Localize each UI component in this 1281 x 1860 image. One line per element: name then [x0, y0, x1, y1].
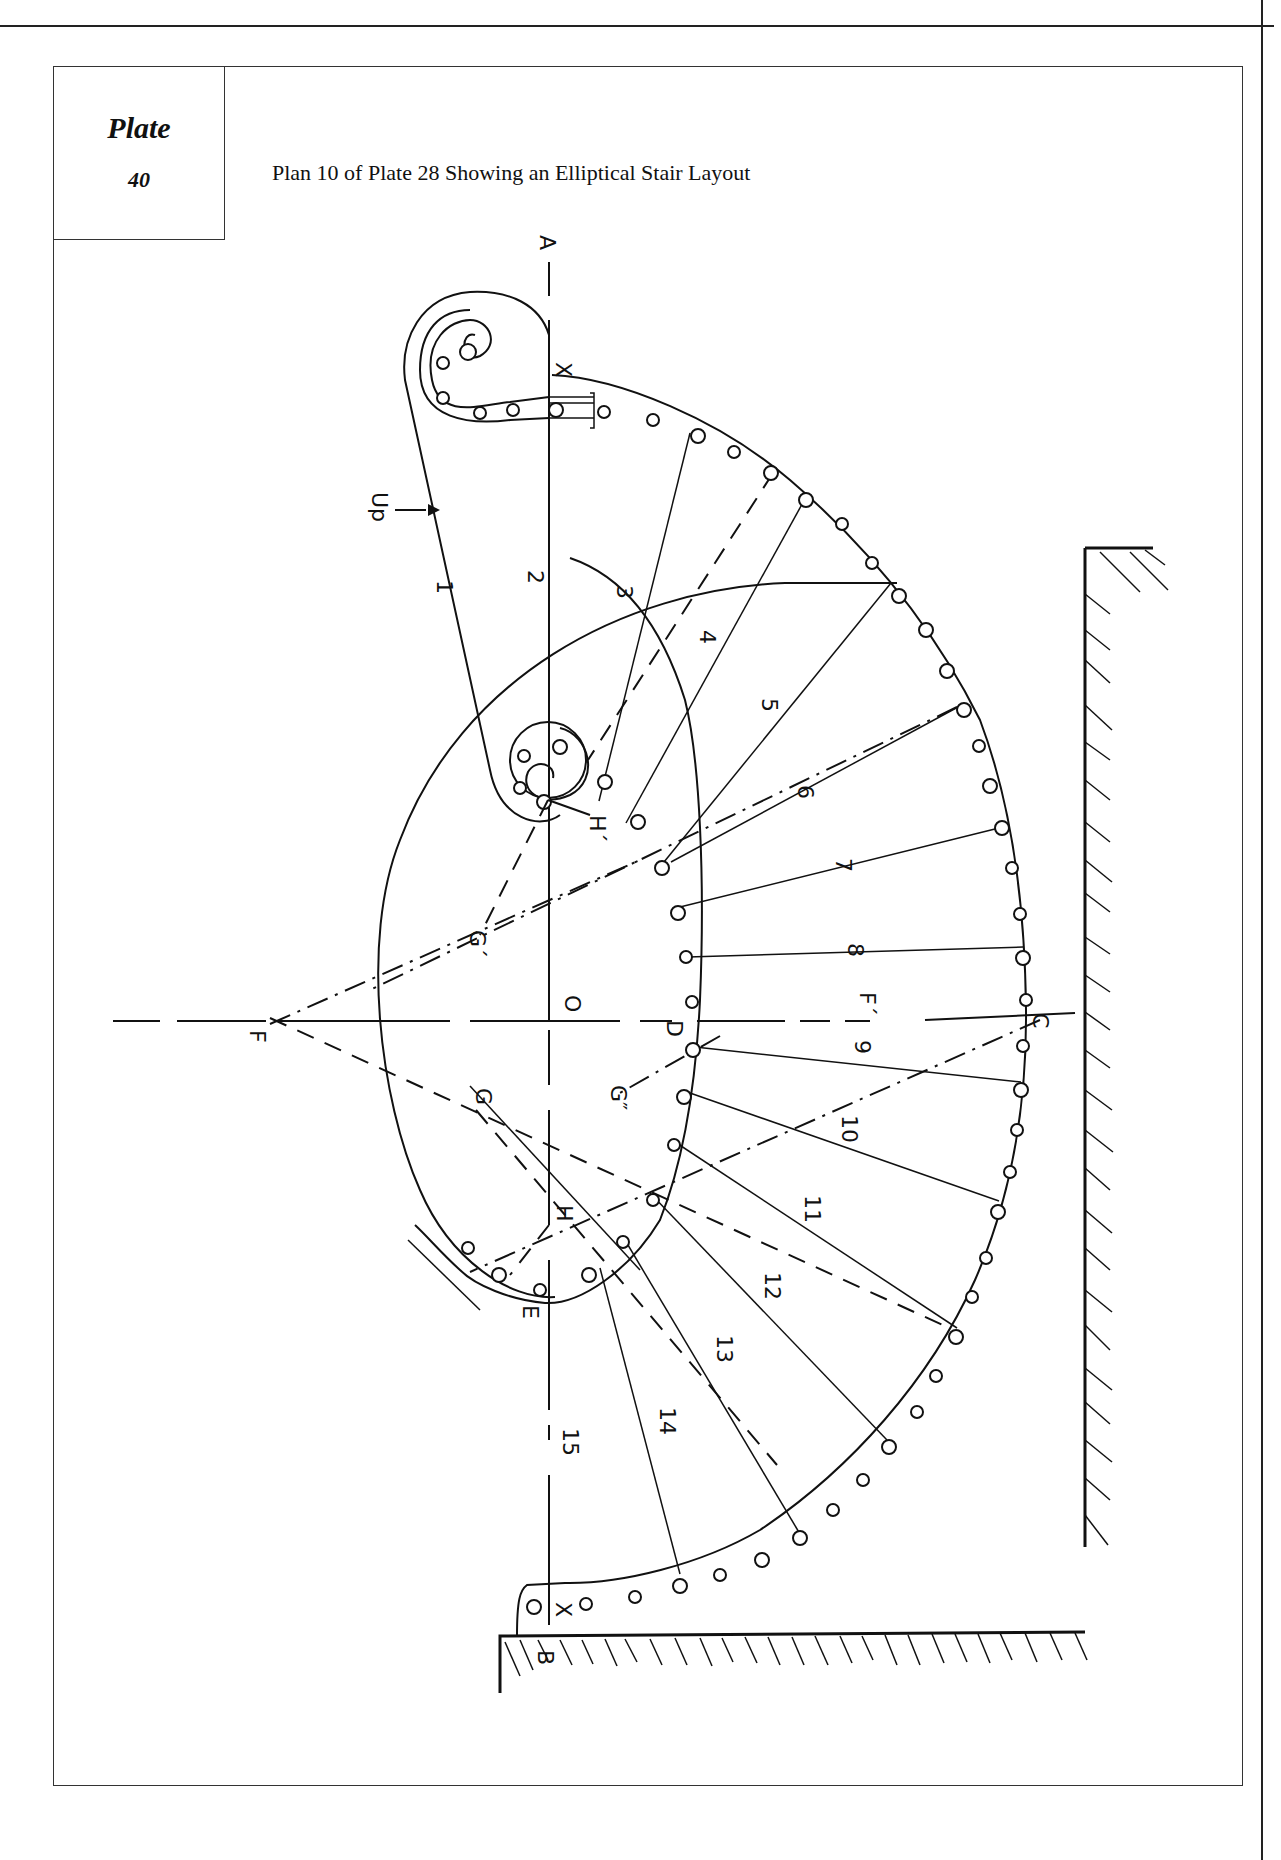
step-11: 11	[800, 1195, 825, 1223]
label-o: O	[560, 995, 585, 1012]
outer-handrail	[517, 375, 1026, 1636]
elliptical-stair-plan: A X Up H´ G´ O D F´ C F G G″ H E X B 1 2…	[0, 0, 1281, 1860]
step-13: 13	[712, 1335, 737, 1363]
step-6: 6	[793, 785, 818, 799]
label-x-bottom: X	[551, 1602, 576, 1617]
step-1: 1	[432, 580, 457, 594]
outer-balusters	[527, 406, 1032, 1614]
label-a: A	[535, 235, 560, 250]
construction-lines	[270, 473, 1040, 1465]
step-2: 2	[523, 570, 548, 584]
step-10: 10	[837, 1115, 862, 1143]
step-number-labels: 1 2 3 4 5 6 7 8 9 10 11 12 13 14 15	[432, 570, 875, 1456]
step-3: 3	[612, 585, 637, 599]
label-f-prime: F´	[855, 992, 880, 1016]
step-14: 14	[655, 1407, 680, 1435]
step-9: 9	[850, 1040, 875, 1054]
wall-right	[1085, 548, 1168, 1547]
step-8: 8	[843, 943, 868, 957]
step-15: 15	[558, 1428, 583, 1456]
step-risers	[408, 433, 1023, 1574]
inner-handrail	[415, 558, 702, 1303]
label-f: F	[245, 1030, 270, 1043]
label-b: B	[533, 1650, 558, 1665]
label-g: G	[471, 1088, 496, 1105]
construction-ellipse	[378, 583, 897, 1297]
label-d: D	[662, 1020, 687, 1037]
step-4: 4	[695, 630, 720, 644]
step-7: 7	[831, 858, 856, 872]
label-c: C	[1028, 1013, 1053, 1028]
wall-bottom	[500, 1632, 1087, 1693]
label-g-prime: G´	[465, 930, 490, 958]
label-e: E	[518, 1305, 543, 1319]
label-up: Up	[367, 492, 392, 522]
step-5: 5	[757, 698, 782, 712]
label-x-top: X	[551, 362, 576, 377]
label-h: H	[552, 1205, 577, 1222]
label-h-prime: H´	[585, 815, 610, 843]
axis-f-c	[113, 1013, 1075, 1021]
label-g-double-prime: G″	[606, 1085, 631, 1110]
step-12: 12	[760, 1272, 785, 1300]
